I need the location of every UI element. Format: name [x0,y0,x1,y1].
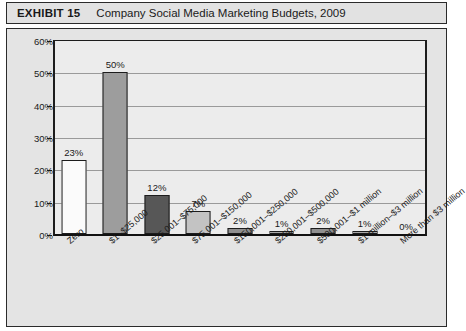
bar-slot: 23% [53,40,95,234]
chart-container: 0%10%20%30%40%50%60% 23%50%12%7%2%1%2%1%… [6,28,447,327]
bar-value-label: 2% [316,215,330,226]
bar-value-label: 2% [233,215,247,226]
exhibit-header: EXHIBIT 15 Company Social Media Marketin… [6,2,447,24]
y-axis: 0%10%20%30%40%50%60% [7,40,53,236]
bar-value-label: 23% [64,147,83,158]
x-axis-labels: Zero$1–$25,000$25,001–$75,000$75,001–$15… [53,238,427,326]
bar-value-label: 50% [106,59,125,70]
y-axis-tick-mark [47,235,52,236]
bar-slot: 12% [136,40,178,234]
bar-value-label: 12% [147,182,166,193]
bar [103,72,128,234]
bar [61,160,86,234]
bar-slot: 50% [95,40,137,234]
exhibit-title: Company Social Media Marketing Budgets, … [96,7,345,19]
y-axis-tick-mark [47,203,52,204]
y-axis-tick-mark [47,73,52,74]
y-axis-tick-mark [47,138,52,139]
exhibit-number-label: EXHIBIT 15 [17,7,80,19]
y-axis-tick-mark [47,106,52,107]
y-axis-tick-mark [47,170,52,171]
y-axis-tick-mark [47,41,52,42]
